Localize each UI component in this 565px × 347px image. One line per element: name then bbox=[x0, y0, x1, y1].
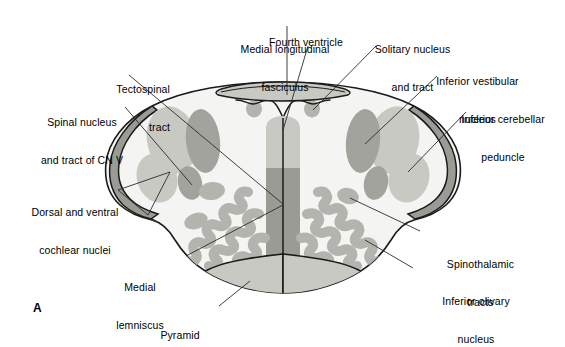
label-line-2: peduncle bbox=[443, 151, 563, 164]
label-pyramid: Pyramid bbox=[140, 304, 220, 347]
label-line-2: and tract of CN V bbox=[22, 154, 142, 167]
label-line-1: Inferior olivary bbox=[416, 295, 536, 308]
panel-letter: A bbox=[33, 301, 42, 315]
label-line-2: fasciculus bbox=[220, 81, 350, 94]
label-line-1: Pyramid bbox=[140, 329, 220, 342]
label-line-1: Spinothalamic bbox=[423, 258, 538, 271]
label-line-1: Inferior cerebellar bbox=[443, 113, 563, 126]
label-spinal-nucleus-and-tract-of-cn-v: Spinal nucleus and tract of CN V bbox=[22, 91, 142, 179]
label-inferior-cerebellar-peduncle: Inferior cerebellar peduncle bbox=[443, 88, 563, 176]
label-line-1: Inferior vestibular bbox=[420, 75, 535, 88]
label-line-1: Medial bbox=[97, 281, 183, 294]
label-line-2: cochlear nuclei bbox=[12, 244, 138, 257]
label-inferior-olivary-nucleus: Inferior olivary nucleus bbox=[416, 270, 536, 347]
label-line-1: Dorsal and ventral bbox=[12, 206, 138, 219]
label-line-2: nucleus bbox=[416, 333, 536, 346]
label-line-1: Fourth ventricle bbox=[256, 36, 356, 49]
label-fourth-ventricle: Fourth ventricle bbox=[256, 11, 356, 61]
label-line-1: Spinal nucleus bbox=[22, 116, 142, 129]
